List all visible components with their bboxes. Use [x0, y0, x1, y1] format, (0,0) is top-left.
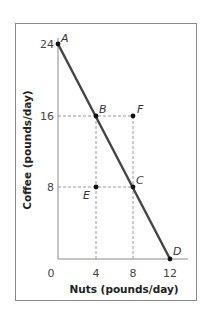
label-c: C — [136, 174, 144, 187]
point-e — [94, 185, 99, 190]
x-tick-4: 4 — [93, 267, 100, 280]
x-axis-title: Nuts (pounds/day) — [69, 283, 178, 295]
y-tick-24: 24 — [40, 38, 54, 51]
point-f — [131, 114, 136, 119]
point-b — [94, 114, 99, 119]
point-d — [168, 257, 173, 262]
label-a: A — [60, 32, 69, 45]
label-d: D — [173, 245, 181, 258]
ppf-chart: A B F C E D 24 16 8 0 4 8 12 Nuts (pound… — [0, 0, 207, 315]
label-f: F — [137, 103, 144, 116]
point-c — [131, 185, 136, 190]
y-axis-title: Coffee (pounds/day) — [21, 90, 33, 209]
x-tick-12: 12 — [163, 267, 177, 280]
label-b: B — [99, 103, 107, 116]
label-e: E — [83, 189, 90, 202]
x-tick-0: 0 — [48, 267, 55, 280]
y-tick-16: 16 — [40, 110, 54, 123]
y-tick-8: 8 — [47, 181, 54, 194]
point-a — [56, 42, 61, 47]
x-tick-8: 8 — [130, 267, 137, 280]
